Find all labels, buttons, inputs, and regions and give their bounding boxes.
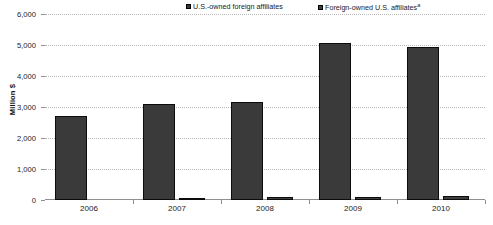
y-tick-mark-0 — [41, 200, 45, 201]
bar-series-2-2008 — [267, 197, 293, 200]
x-tick-mark-2008 — [309, 200, 310, 204]
legend-swatch-series-1 — [186, 4, 191, 9]
legend-label-series-2-footnote-marker: a — [417, 2, 420, 8]
plot-area: 01,0002,0003,0004,0005,0006,000 — [45, 14, 485, 200]
y-tick-mark-4000 — [41, 76, 45, 77]
legend-label-series-2: Foreign-owned U.S. affiliatesa — [325, 2, 420, 12]
legend-item-us-owned-foreign-affiliates: U.S.-owned foreign affiliates — [186, 2, 283, 11]
legend-label-series-2-text: Foreign-owned U.S. affiliates — [325, 3, 417, 12]
bar-series-1-2008 — [231, 102, 263, 200]
x-axis-label-2009: 2009 — [344, 204, 362, 213]
y-tick-label-5000: 5,000 — [0, 41, 36, 50]
legend-label-series-1-text: U.S.-owned foreign affiliates — [193, 2, 283, 11]
bar-series-1-2010 — [407, 47, 439, 200]
bar-series-1-2009 — [319, 43, 351, 200]
y-tick-label-1000: 1,000 — [0, 165, 36, 174]
x-axis-label-2007: 2007 — [168, 204, 186, 213]
y-tick-label-2000: 2,000 — [0, 134, 36, 143]
x-tick-mark-2006 — [133, 200, 134, 204]
y-tick-mark-6000 — [41, 14, 45, 15]
y-tick-label-3000: 3,000 — [0, 103, 36, 112]
x-tick-mark-2007 — [221, 200, 222, 204]
y-tick-label-6000: 6,000 — [0, 10, 36, 19]
legend-item-foreign-owned-us-affiliates: Foreign-owned U.S. affiliatesa — [318, 2, 420, 12]
y-tick-mark-1000 — [41, 169, 45, 170]
y-tick-label-0: 0 — [0, 196, 36, 205]
bar-series-2-2009 — [355, 197, 381, 200]
y-tick-mark-5000 — [41, 45, 45, 46]
chart-legend: U.S.-owned foreign affiliates Foreign-ow… — [0, 1, 493, 13]
x-axis-label-2006: 2006 — [80, 204, 98, 213]
y-tick-mark-3000 — [41, 107, 45, 108]
gridline-6000 — [45, 14, 485, 15]
x-tick-mark-2009 — [397, 200, 398, 204]
x-tick-mark-2010 — [485, 200, 486, 204]
bar-series-1-2006 — [55, 116, 87, 200]
legend-swatch-series-2 — [318, 5, 323, 10]
bar-series-1-2007 — [143, 104, 175, 200]
y-tick-mark-2000 — [41, 138, 45, 139]
x-axis-label-2010: 2010 — [432, 204, 450, 213]
x-axis-label-2008: 2008 — [256, 204, 274, 213]
bar-series-2-2010 — [443, 196, 469, 200]
y-tick-label-4000: 4,000 — [0, 72, 36, 81]
bar-series-2-2007 — [179, 198, 205, 200]
legend-label-series-1: U.S.-owned foreign affiliates — [193, 2, 283, 11]
bar-chart: U.S.-owned foreign affiliates Foreign-ow… — [0, 0, 493, 225]
